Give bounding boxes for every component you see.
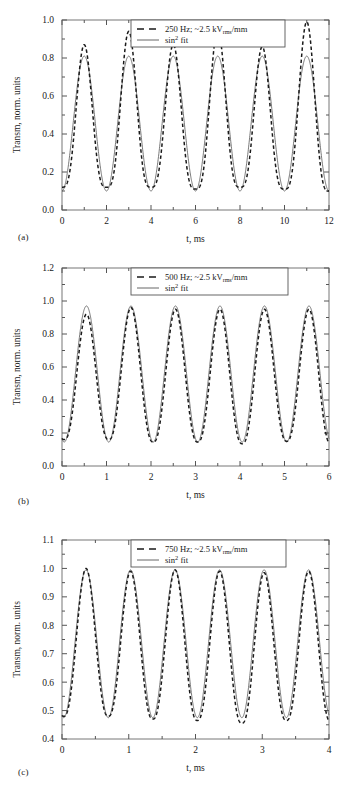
y-tick-label: 0.6 bbox=[42, 91, 54, 101]
x-tick-label: 0 bbox=[60, 472, 65, 482]
panel-caption-c: (c) bbox=[18, 767, 29, 777]
x-tick-label: 0 bbox=[60, 745, 65, 755]
chart-b: 01234560.00.20.40.60.81.01.2t, msTransm,… bbox=[0, 258, 346, 524]
x-tick-label: 12 bbox=[324, 216, 334, 226]
plot-curves bbox=[62, 306, 329, 444]
y-tick-label: 0.0 bbox=[42, 461, 54, 471]
y-tick-label: 0.4 bbox=[42, 395, 54, 405]
plot-frame bbox=[62, 268, 329, 466]
x-tick-label: 5 bbox=[282, 472, 287, 482]
chart-a: 0246810120.00.20.40.60.81.0t, msTransm, … bbox=[0, 0, 346, 262]
y-tick-label: 0.6 bbox=[42, 678, 54, 688]
y-axis-title: Transm, norm. units bbox=[12, 328, 22, 405]
series-measured-data bbox=[62, 568, 329, 723]
y-tick-label: 0.2 bbox=[42, 428, 54, 438]
panel-caption-b: (b) bbox=[18, 496, 29, 506]
series-sin2-fit bbox=[62, 56, 329, 191]
x-tick-label: 0 bbox=[60, 216, 65, 226]
chart-legend: 250 Hz; ~2.5 kVrms/mmsin2 fit bbox=[131, 20, 285, 47]
chart-legend: 500 Hz; ~2.5 kVrms/mmsin2 fit bbox=[131, 268, 288, 295]
y-tick-label: 1.1 bbox=[42, 535, 54, 545]
x-tick-label: 6 bbox=[327, 472, 332, 482]
x-tick-label: 2 bbox=[149, 472, 154, 482]
y-tick-label: 1.0 bbox=[42, 296, 54, 306]
x-tick-label: 3 bbox=[193, 472, 198, 482]
x-tick-label: 3 bbox=[260, 745, 265, 755]
y-tick-label: 0.4 bbox=[42, 129, 54, 139]
plot-frame bbox=[62, 20, 329, 210]
axis-ticks bbox=[62, 268, 329, 466]
figure-panel-a: 0246810120.00.20.40.60.81.0t, msTransm, … bbox=[0, 0, 346, 262]
x-axis-title: t, ms bbox=[186, 763, 205, 773]
y-tick-label: 0.8 bbox=[42, 329, 54, 339]
axis-ticks bbox=[62, 20, 329, 210]
y-tick-label: 0.9 bbox=[42, 592, 54, 602]
x-tick-label: 4 bbox=[149, 216, 154, 226]
x-tick-label: 4 bbox=[238, 472, 243, 482]
chart-c: 012340.40.50.60.70.80.91.01.1t, msTransm… bbox=[0, 524, 346, 794]
x-tick-label: 8 bbox=[238, 216, 243, 226]
y-tick-label: 1.2 bbox=[42, 263, 54, 273]
y-tick-label: 0.8 bbox=[42, 53, 54, 63]
figure-panel-b: 01234560.00.20.40.60.81.01.2t, msTransm,… bbox=[0, 258, 346, 524]
y-axis-title: Transm, norm. units bbox=[12, 76, 22, 153]
panel-caption-a: (a) bbox=[18, 232, 29, 242]
chart-legend: 750 Hz; ~2.5 kVrms/mmsin2 fit bbox=[131, 540, 286, 567]
y-tick-label: 0.2 bbox=[42, 167, 54, 177]
x-tick-label: 2 bbox=[193, 745, 198, 755]
x-axis-title: t, ms bbox=[186, 490, 205, 500]
plot-curves bbox=[62, 568, 329, 723]
series-measured-data bbox=[62, 308, 329, 444]
x-tick-label: 4 bbox=[327, 745, 332, 755]
figure-panel-c: 012340.40.50.60.70.80.91.01.1t, msTransm… bbox=[0, 524, 346, 794]
x-tick-label: 6 bbox=[193, 216, 198, 226]
x-tick-label: 1 bbox=[104, 472, 109, 482]
x-tick-label: 2 bbox=[104, 216, 109, 226]
plot-frame bbox=[62, 540, 329, 739]
x-tick-label: 10 bbox=[280, 216, 290, 226]
y-tick-label: 0.6 bbox=[42, 362, 54, 372]
y-tick-label: 0.4 bbox=[42, 734, 54, 744]
y-axis-title: Transm, norm. units bbox=[12, 601, 22, 678]
tick-labels: 01234560.00.20.40.60.81.01.2 bbox=[42, 263, 332, 482]
x-tick-label: 1 bbox=[126, 745, 131, 755]
y-tick-label: 1.0 bbox=[42, 564, 54, 574]
x-axis-title: t, ms bbox=[186, 234, 205, 244]
y-tick-label: 0.5 bbox=[42, 706, 54, 716]
y-tick-label: 0.0 bbox=[42, 205, 54, 215]
y-tick-label: 1.0 bbox=[42, 15, 54, 25]
y-tick-label: 0.8 bbox=[42, 621, 54, 631]
y-tick-label: 0.7 bbox=[42, 649, 54, 659]
axis-ticks bbox=[62, 540, 329, 739]
